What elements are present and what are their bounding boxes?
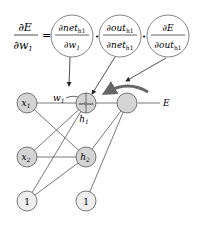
svg-text:net|out: net|out xyxy=(79,101,94,106)
svg-text:∂neth1: ∂neth1 xyxy=(106,40,133,51)
node-bias-2: 1 xyxy=(76,191,96,211)
node-h2: h2 xyxy=(76,147,96,167)
equals-sign: = xyxy=(42,29,51,42)
backprop-diagram: ∂E ∂w1 = ∂neth1 ∂w1 • ∂outh1 ∂neth1 • ∂E… xyxy=(0,0,198,226)
svg-text:∂neth1: ∂neth1 xyxy=(58,23,85,34)
svg-text:h1: h1 xyxy=(79,114,89,125)
svg-text:∂E: ∂E xyxy=(18,21,32,34)
error-label: E xyxy=(162,98,170,108)
svg-text:∂w1: ∂w1 xyxy=(13,39,33,53)
node-x1: x1 xyxy=(17,93,37,113)
svg-text:∂outh1: ∂outh1 xyxy=(106,23,133,34)
node-h1: net|out h1 xyxy=(76,93,96,125)
svg-text:1: 1 xyxy=(24,197,30,207)
svg-text:•: • xyxy=(142,33,146,41)
term-1: ∂neth1 ∂w1 xyxy=(51,15,93,57)
lhs-fraction: ∂E ∂w1 xyxy=(13,21,38,53)
weight-label: w1 xyxy=(53,93,65,104)
pointer-arrow-3 xyxy=(126,58,166,81)
chain-rule-formula: ∂E ∂w1 = ∂neth1 ∂w1 • ∂outh1 ∂neth1 • ∂E… xyxy=(13,15,189,57)
svg-text:1: 1 xyxy=(83,197,89,207)
pointer-arrow-1 xyxy=(69,57,70,86)
node-x2: x2 xyxy=(17,147,37,167)
node-output xyxy=(117,93,137,113)
svg-text:∂w1: ∂w1 xyxy=(64,40,80,51)
svg-text:∂outh1: ∂outh1 xyxy=(154,40,181,51)
backprop-arrow xyxy=(107,86,148,92)
term-3: ∂E ∂outh1 xyxy=(147,15,189,57)
node-bias-1: 1 xyxy=(17,191,37,211)
term-2: ∂outh1 ∂neth1 xyxy=(99,15,141,57)
svg-text:•: • xyxy=(95,33,99,41)
svg-text:∂E: ∂E xyxy=(162,23,174,33)
